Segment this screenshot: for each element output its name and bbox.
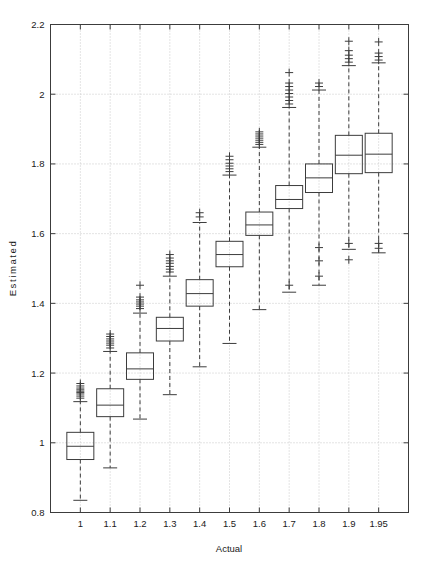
y-tick-label: 2 (39, 89, 44, 100)
y-tick-label: 1.2 (31, 368, 44, 379)
x-tick-label: 1.3 (163, 518, 176, 529)
x-tick-label: 1.95 (369, 518, 388, 529)
y-tick-label: 1.6 (31, 228, 44, 239)
y-tick-label: 0.8 (31, 507, 44, 518)
x-tick-label: 1.8 (312, 518, 325, 529)
x-tick-label: 1.2 (133, 518, 146, 529)
y-tick-label: 1.4 (31, 298, 44, 309)
x-tick-label: 1.5 (223, 518, 236, 529)
y-tick-label: 1 (39, 437, 44, 448)
x-tick-label: 1.1 (104, 518, 117, 529)
y-tick-label: 1.8 (31, 158, 44, 169)
x-tick-label: 1.9 (342, 518, 355, 529)
box-plot-chart: 0.811.21.41.61.822.2 11.11.21.31.41.51.6… (0, 0, 427, 568)
x-tick-label: 1.4 (193, 518, 206, 529)
x-tick-label: 1 (78, 518, 83, 529)
x-tick-label: 1.6 (253, 518, 266, 529)
y-axis-label: Estimated (7, 240, 18, 297)
y-tick-label: 2.2 (31, 19, 44, 30)
x-axis-label: Actual (216, 543, 242, 554)
figure-container: 0.811.21.41.61.822.2 11.11.21.31.41.51.6… (0, 0, 427, 568)
x-tick-label: 1.7 (283, 518, 296, 529)
